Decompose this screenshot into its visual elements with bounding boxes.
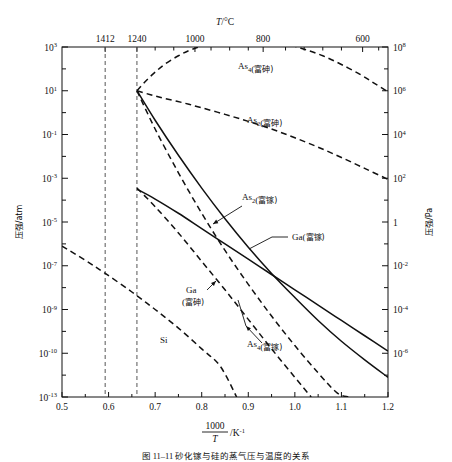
y-tick-label-left: 10-10 <box>39 347 57 358</box>
curve-label-Ga-arsenic-rich-line2: (富砷) <box>182 297 204 307</box>
curve-label-Si: Si <box>160 335 168 345</box>
curve-As4-gallium-rich <box>137 91 348 397</box>
y-tick-label-left: 103 <box>44 41 57 52</box>
curve-Si <box>62 246 237 397</box>
curve-Ga-arsenic-rich <box>137 188 311 397</box>
y-tick-label-left: 10-1 <box>42 129 57 140</box>
x-tick-label: 0.5 <box>56 402 68 412</box>
y-tick-label-right: 102 <box>393 172 406 183</box>
leader-as2-ga-rich-arrowhead <box>213 220 218 224</box>
top-tick-label: 1000 <box>185 34 204 44</box>
x-tick-label: 0.8 <box>196 402 208 412</box>
bottom-axis-title-denominator: T <box>212 434 218 444</box>
curve-label-As4-gallium-rich: As4(富镓) <box>247 339 282 352</box>
figure-caption: 图 11–11 砂化镓与硅的蒸气压与温度的关系 <box>0 451 452 462</box>
curve-label-Ga-gallium-rich: Ga(富镓) <box>292 232 325 242</box>
y-tick-label-left: 10-9 <box>42 304 57 315</box>
top-tick-label: 1240 <box>127 34 146 44</box>
vapor-pressure-chart: 0.50.60.70.80.91.01.11.210310110-110-310… <box>0 0 452 462</box>
x-tick-label: 0.6 <box>103 402 115 412</box>
y-tick-label-right: 104 <box>393 129 407 140</box>
y-tick-label-left: 10-13 <box>39 391 57 402</box>
right-axis-title: 压强/Pa <box>425 208 434 236</box>
y-tick-label-right: 1 <box>393 218 398 228</box>
curve-As2-gallium-rich <box>137 91 388 378</box>
bottom-axis-title-unit: /K-1 <box>230 427 245 438</box>
y-tick-label-left: 10-5 <box>42 216 57 227</box>
curve-label-As2-arsenic-rich: As2(富砷) <box>247 115 282 128</box>
curves-layer <box>62 39 388 397</box>
leader-as4-ga-rich-2 <box>238 300 246 326</box>
y-tick-label-left: 10-3 <box>42 172 57 183</box>
plot-frame <box>62 47 388 397</box>
y-tick-label-right: 10-6 <box>393 347 409 358</box>
leader-ga-ga-rich-2 <box>249 237 272 249</box>
x-tick-label: 1.0 <box>289 402 301 412</box>
x-tick-label: 1.1 <box>335 402 347 412</box>
y-tick-label-left: 101 <box>44 85 57 96</box>
curve-Ga-gallium-rich <box>137 189 388 351</box>
y-tick-label-left: 10-7 <box>42 260 58 271</box>
y-tick-label-right: 10-4 <box>393 304 409 315</box>
x-tick-label: 0.9 <box>242 402 254 412</box>
top-tick-label: 800 <box>256 34 271 44</box>
curve-label-As4-arsenic-rich: As4(富砷) <box>238 61 273 74</box>
bottom-axis-title-numerator: 1000 <box>206 421 225 431</box>
x-tick-label: 1.2 <box>382 402 394 412</box>
x-tick-label: 0.7 <box>149 402 161 412</box>
left-axis-title: 压强/atm <box>15 205 24 240</box>
top-tick-label: 600 <box>355 34 370 44</box>
top-tick-label: 1412 <box>96 34 115 44</box>
curve-label-Ga-arsenic-rich: Ga <box>186 285 197 295</box>
y-tick-label-right: 10-2 <box>393 260 408 271</box>
curve-label-As2-gallium-rich: As2(富镓) <box>242 192 277 205</box>
top-axis-title: T/°C <box>216 17 234 27</box>
figure-container: 0.50.60.70.80.91.01.11.210310110-110-310… <box>0 0 452 462</box>
y-tick-label-right: 108 <box>393 41 406 52</box>
y-tick-label-right: 106 <box>393 85 407 96</box>
